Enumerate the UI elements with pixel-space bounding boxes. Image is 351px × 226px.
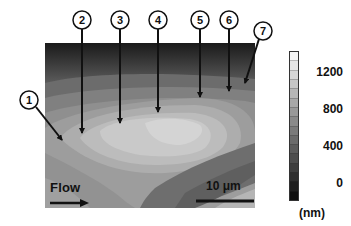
svg-text:5: 5 bbox=[197, 14, 203, 26]
marker-1: 1 bbox=[20, 91, 62, 140]
colorbar-tick-0: 0 bbox=[305, 177, 343, 189]
svg-text:7: 7 bbox=[260, 25, 266, 37]
colorbar-tick-1200: 1200 bbox=[305, 66, 343, 78]
colorbar-tick-400: 400 bbox=[305, 140, 343, 152]
marker-5: 5 bbox=[191, 11, 209, 97]
marker-2: 2 bbox=[73, 11, 91, 133]
svg-text:2: 2 bbox=[79, 14, 85, 26]
flow-arrow-icon bbox=[50, 199, 89, 207]
scale-bar-label: 10 μm bbox=[206, 179, 241, 193]
marker-7: 7 bbox=[245, 22, 272, 83]
marker-3: 3 bbox=[111, 11, 129, 123]
svg-text:3: 3 bbox=[117, 14, 123, 26]
figure: 1 2 3 4 5 6 7 bbox=[0, 0, 351, 226]
colorbar bbox=[289, 51, 299, 201]
colorbar-tick-800: 800 bbox=[305, 103, 343, 115]
marker-6: 6 bbox=[220, 11, 238, 91]
svg-text:1: 1 bbox=[26, 94, 32, 106]
svg-text:6: 6 bbox=[226, 14, 232, 26]
colorbar-unit: (nm) bbox=[299, 206, 325, 220]
flow-label: Flow bbox=[50, 180, 80, 195]
svg-text:4: 4 bbox=[155, 14, 162, 26]
marker-4: 4 bbox=[149, 11, 167, 112]
